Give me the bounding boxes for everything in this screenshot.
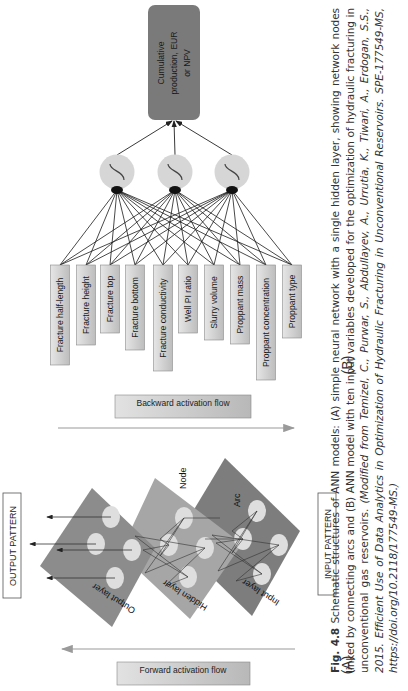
rotated-figure-page: Cumulative production, EUR or NPV [0, 0, 408, 691]
node-annotation: Node [178, 467, 188, 489]
input-variable-label: Proppant concentration [261, 278, 271, 367]
input-variable-label: Proppant type [287, 275, 297, 329]
input-variable-box: Fracture bottom [126, 265, 145, 350]
output-node-label-line1: Cumulative [156, 41, 166, 84]
output-node-box: Cumulative production, EUR or NPV [148, 5, 200, 120]
input-variable-box: Fracture height [77, 265, 96, 345]
arc-annotation: Arc [232, 493, 242, 507]
figure-caption: Fig. 4.8 Schematic structures of ANN mod… [328, 8, 401, 673]
forward-flow-label: Forward activation flow [140, 665, 228, 675]
input-variable-label: Fracture top [105, 276, 115, 323]
forward-flow: Forward activation flow [62, 649, 295, 685]
output-node-label-line3: or NPV [182, 49, 192, 77]
backward-flow-label: Backward activation flow [136, 398, 230, 408]
hidden-node [100, 155, 135, 195]
input-variable-box: Fracture top [101, 265, 120, 333]
figure-number: Fig. 4.8 [329, 628, 341, 673]
input-variable-box: Well PI ratio [179, 265, 198, 333]
input-to-hidden-arcs [60, 190, 292, 265]
input-variable-box: Slurry volume [205, 265, 224, 340]
hidden-node [215, 155, 250, 195]
output-node-label-line2: production, EUR [169, 31, 179, 94]
input-variable-label: Fracture conductivity [158, 278, 168, 358]
input-variable-label: Well PI ratio [183, 276, 193, 322]
input-variable-box: Proppant concentration [257, 265, 276, 380]
hidden-layer-nodes [100, 155, 250, 195]
input-variable-box: Proppant type [283, 265, 302, 338]
output-pattern-box: OUTPUT PATTERN [3, 493, 21, 598]
input-variable-boxes: Fracture half-lengthFracture heightFract… [51, 265, 302, 380]
input-variable-label: Proppant mass [235, 276, 245, 334]
hidden-node [158, 155, 193, 195]
input-variable-box: Fracture half-length [51, 265, 70, 365]
input-variable-label: Fracture bottom [130, 277, 140, 338]
input-variable-label: Fracture half-length [55, 278, 65, 353]
input-variable-box: Fracture conductivity [154, 265, 173, 371]
input-variable-label: Slurry volume [209, 276, 219, 329]
hidden-to-output-arcs [117, 121, 232, 155]
output-pattern-label: OUTPUT PATTERN [8, 506, 18, 586]
input-variable-label: Fracture height [81, 275, 91, 333]
backward-flow: Backward activation flow [58, 395, 294, 428]
input-variable-box: Proppant mass [231, 265, 250, 344]
